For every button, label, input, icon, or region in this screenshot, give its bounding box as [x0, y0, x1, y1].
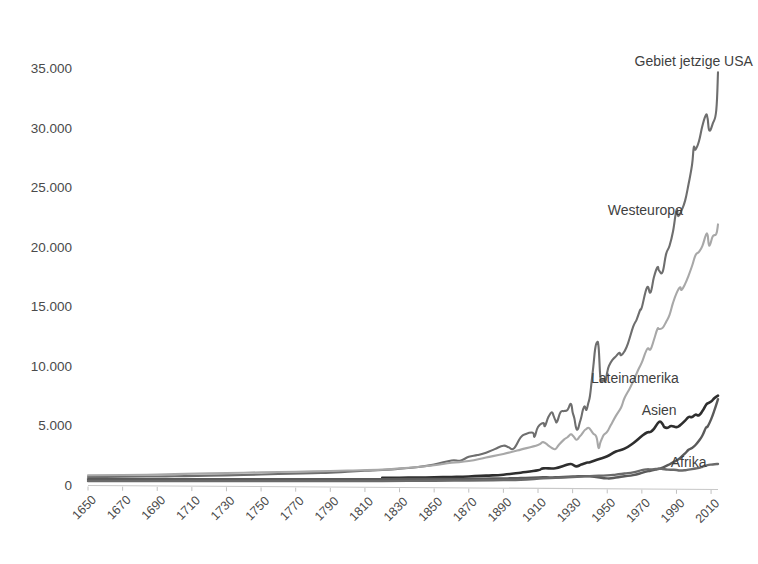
series-inline-labels: Gebiet jetzige USAWesteuropaLateinamerik… [591, 53, 754, 470]
x-axis-tick-label: 1910 [520, 495, 550, 525]
series-lines [88, 72, 718, 481]
y-axis-tick-label: 15.000 [31, 299, 72, 314]
y-axis-tick-label: 20.000 [31, 240, 72, 255]
y-axis-tick-label: 0 [64, 478, 72, 493]
x-axis-baseline [88, 486, 718, 490]
line-chart: 05.00010.00015.00020.00025.00030.00035.0… [0, 0, 758, 564]
y-axis-tick-label: 30.000 [31, 121, 72, 136]
x-axis-tick-label: 1770 [277, 494, 307, 524]
x-axis-tick-label: 1850 [416, 495, 446, 525]
y-axis-tick-labels: 05.00010.00015.00020.00025.00030.00035.0… [31, 61, 72, 492]
series-line-gebiet-jetzige-usa [88, 72, 718, 477]
y-axis-tick-label: 25.000 [31, 180, 72, 195]
series-label-asien: Asien [642, 402, 677, 418]
x-axis-tick-label: 1730 [208, 493, 238, 523]
x-axis-tick-label: 2010 [693, 496, 723, 526]
x-axis-tick-label: 1650 [70, 493, 100, 523]
x-axis-tick-label: 1890 [485, 495, 515, 525]
chart-container: 05.00010.00015.00020.00025.00030.00035.0… [0, 0, 758, 564]
x-axis-tick-labels: 1650167016901710173017501770179018101830… [70, 493, 723, 526]
x-axis-tick-label: 1930 [554, 495, 584, 525]
series-label-afrika: Afrika [671, 454, 707, 470]
x-axis-tick-label: 1950 [589, 496, 619, 526]
axis-baseline-path [88, 486, 718, 490]
x-axis-tick-label: 1710 [173, 493, 203, 523]
x-axis-tick-label: 1870 [450, 495, 480, 525]
x-axis-tick-label: 1970 [623, 496, 653, 526]
series-label-westeuropa: Westeuropa [608, 202, 683, 218]
y-axis-tick-label: 35.000 [31, 61, 72, 76]
y-axis-tick-label: 10.000 [31, 359, 72, 374]
y-axis-tick-label: 5.000 [38, 418, 72, 433]
x-axis-tick-label: 1670 [104, 493, 134, 523]
x-axis-tick-label: 1690 [139, 493, 169, 523]
series-label-gebiet-jetzige-usa: Gebiet jetzige USA [635, 53, 754, 69]
series-line-westeuropa [88, 224, 718, 475]
x-axis-tick-label: 1810 [346, 494, 376, 524]
x-axis-tick-label: 1790 [312, 494, 342, 524]
x-axis-tick-label: 1750 [243, 494, 273, 524]
series-label-lateinamerika: Lateinamerika [591, 370, 679, 386]
x-axis-tick-label: 1990 [658, 496, 688, 526]
x-axis-tick-label: 1830 [381, 494, 411, 524]
